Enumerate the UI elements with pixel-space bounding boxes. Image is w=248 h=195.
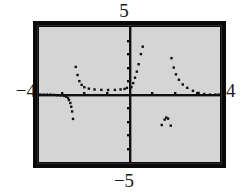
data-point <box>209 93 211 95</box>
plot-area <box>39 27 220 162</box>
data-point <box>76 74 78 76</box>
data-point <box>88 87 90 89</box>
y-tick-mark <box>127 107 131 109</box>
data-point <box>78 80 80 82</box>
y-tick-mark <box>127 53 131 55</box>
data-point <box>69 102 71 104</box>
y-tick-mark <box>127 80 131 82</box>
series-branch-valley <box>75 66 129 91</box>
function-plot <box>39 27 220 162</box>
data-point <box>130 86 132 88</box>
data-point <box>53 94 55 96</box>
axes-layer <box>39 27 220 162</box>
data-point <box>39 93 41 95</box>
data-point <box>42 93 44 95</box>
series-branch-right-of-origin-rising <box>130 45 144 88</box>
x-tick-mark <box>106 92 108 95</box>
series-lower-arc-cluster <box>161 116 172 127</box>
data-point <box>170 124 172 126</box>
data-point <box>167 117 169 119</box>
data-point <box>170 57 172 59</box>
data-point <box>178 79 180 81</box>
data-point <box>123 88 125 90</box>
data-point <box>114 89 116 91</box>
data-point <box>80 84 82 86</box>
data-point <box>140 53 142 55</box>
y-tick-mark <box>127 148 131 150</box>
x-max-label: 4 <box>226 81 248 100</box>
data-point <box>107 89 109 91</box>
data-point <box>134 77 136 79</box>
data-point <box>46 93 48 95</box>
data-point <box>214 93 216 95</box>
y-min-label: −5 <box>0 171 248 190</box>
data-point <box>186 87 188 89</box>
data-point <box>136 70 138 72</box>
data-point <box>71 110 73 112</box>
data-point <box>126 87 128 89</box>
data-point <box>137 63 139 65</box>
data-point <box>63 95 65 97</box>
data-point <box>182 83 184 85</box>
data-point <box>175 73 177 75</box>
data-point <box>100 89 102 91</box>
x-tick-mark <box>83 92 85 95</box>
y-axis-line <box>129 27 131 162</box>
data-point <box>173 66 175 68</box>
x-min-label: −4 <box>2 81 36 100</box>
calculator-screenshot: 5 −4 4 −5 <box>0 0 248 195</box>
y-tick-mark <box>127 40 131 42</box>
x-tick-mark <box>151 92 153 95</box>
data-point <box>142 45 144 47</box>
data-point <box>203 93 205 95</box>
data-point <box>72 118 74 120</box>
data-point <box>75 66 77 68</box>
data-point <box>49 93 51 95</box>
data-point <box>68 99 70 101</box>
calculator-viewport-frame <box>33 21 226 168</box>
y-max-label: 5 <box>0 1 248 20</box>
data-point <box>132 82 134 84</box>
data-point <box>161 124 163 126</box>
data-point <box>83 86 85 88</box>
data-point <box>197 92 199 94</box>
data-point <box>59 94 61 96</box>
data-point <box>119 88 121 90</box>
y-tick-mark <box>127 134 131 136</box>
data-point <box>192 90 194 92</box>
data-point <box>56 94 58 96</box>
series-branch-right-spike <box>170 57 220 96</box>
y-tick-mark <box>127 67 131 69</box>
data-point <box>70 106 72 108</box>
series-branch-left-descending <box>68 99 74 120</box>
x-tick-mark <box>174 92 176 95</box>
data-point <box>93 88 95 90</box>
y-tick-mark <box>127 121 131 123</box>
data-point <box>218 93 220 95</box>
